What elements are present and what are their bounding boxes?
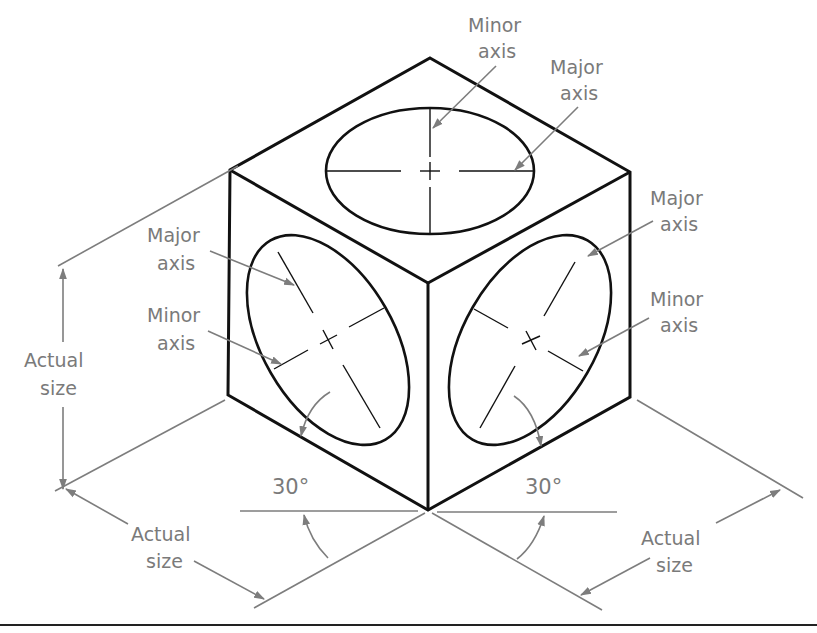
label-angle-right-30: 30°: [525, 475, 562, 499]
label-left-width-actual-size-2: size: [146, 550, 183, 572]
isometric-cube-diagram: Minor axis Major axis Major axis Minor a…: [0, 0, 817, 633]
label-right-major-axis: Major: [650, 187, 703, 209]
labels: Minor axis Major axis Major axis Minor a…: [24, 14, 703, 576]
label-top-major-axis-2: axis: [560, 82, 598, 104]
label-top-major-axis: Major: [550, 56, 603, 78]
angle-references: [240, 511, 617, 559]
label-right-width-actual-size: Actual: [641, 527, 701, 549]
label-top-minor-axis-2: axis: [478, 40, 516, 62]
label-height-actual-size: Actual: [24, 349, 84, 371]
label-left-minor-axis: Minor: [147, 304, 200, 326]
label-top-minor-axis: Minor: [468, 14, 521, 36]
label-left-minor-axis-2: axis: [157, 332, 195, 354]
label-angle-left-30: 30°: [272, 475, 309, 499]
label-left-major-axis: Major: [147, 224, 200, 246]
label-left-width-actual-size: Actual: [131, 523, 191, 545]
right-face-isometric-circle: [415, 207, 644, 472]
right-width-dimension: [432, 400, 803, 610]
label-left-major-axis-2: axis: [157, 252, 195, 274]
left-face-isometric-circle: [213, 207, 442, 472]
left-width-dimension: [66, 489, 425, 608]
cube-outline: [228, 58, 630, 510]
label-right-minor-axis: Minor: [650, 288, 703, 310]
height-dimension: [55, 166, 238, 491]
top-face-isometric-circle: [326, 108, 534, 234]
label-right-minor-axis-2: axis: [660, 314, 698, 336]
label-height-actual-size-2: size: [40, 377, 77, 399]
label-right-width-actual-size-2: size: [656, 554, 693, 576]
label-right-major-axis-2: axis: [660, 213, 698, 235]
